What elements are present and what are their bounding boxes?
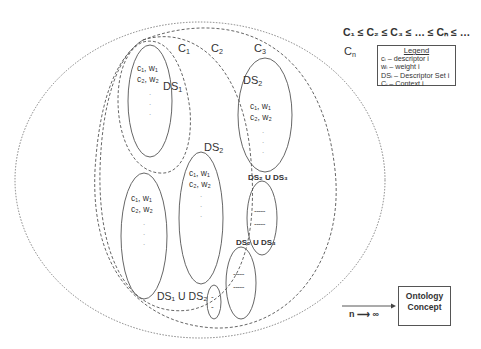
ontology-concept-box: Ontology Concept xyxy=(398,286,451,326)
ontology-line-2: Concept xyxy=(399,302,450,313)
ds1-label: DS1 xyxy=(163,81,182,94)
context-c2-boundary xyxy=(100,37,253,311)
pair-row-1: c₁, w₁ xyxy=(137,63,159,74)
pair-row-1: c₁, w₁ xyxy=(250,101,272,112)
context-c2-label: C2 xyxy=(211,43,223,56)
tiny-set-dashes: -- xyxy=(211,292,214,312)
union-a-dashes: ---------- xyxy=(254,204,265,230)
ds1-pairs: c₁, w₁ c₂, w₂ xyxy=(137,63,159,85)
ds1-union-ds2-ellipsis: ··· xyxy=(139,220,149,250)
legend-box: Legend cᵢ – descriptor i wᵢ – weight i D… xyxy=(377,45,456,86)
dash-row-2: ----- xyxy=(233,280,244,293)
context-cn-label: Cn xyxy=(344,46,356,59)
pair-row-2: c₂, w₂ xyxy=(250,112,272,123)
ds2-top-ellipsis: ··· xyxy=(258,128,268,158)
union-a-label: DS₂ U DS₃ xyxy=(248,174,288,182)
context-c3-label: C3 xyxy=(254,43,266,56)
pair-row-2: c₂, w₂ xyxy=(137,74,159,85)
descriptor-set-tiny xyxy=(207,285,221,319)
pair-row-2: c₂, w₂ xyxy=(131,204,153,215)
dash-row-1: ----- xyxy=(254,204,265,217)
limit-arrow-head xyxy=(391,304,396,309)
ds1-union-ds2-pairs: c₁, w₁ c₂, w₂ xyxy=(131,193,153,215)
union-b-dashes: ---------- xyxy=(233,267,244,293)
pair-row-1: c₁, w₁ xyxy=(131,193,153,204)
legend-item-context: Cᵢ – Context i xyxy=(381,80,452,88)
dash-row-2: ----- xyxy=(254,217,265,230)
pair-row-1: c₁, w₁ xyxy=(189,168,211,179)
ds2-mid-label: DS2 xyxy=(204,142,223,155)
ds2-mid-pairs: c₁, w₁ c₂, w₂ xyxy=(189,168,211,190)
ds1-ellipsis: ··· xyxy=(145,90,155,120)
context-c1-label: C1 xyxy=(178,43,190,56)
union-b-label: DS₂ U DS₃ xyxy=(236,239,276,247)
pair-row-2: c₂, w₂ xyxy=(189,179,211,190)
ds2-mid-ellipsis: ··· xyxy=(196,192,206,222)
ds2-top-label: DS2 xyxy=(243,75,262,88)
limit-label: n ⟶ ∞ xyxy=(349,309,379,319)
ds2-top-pairs: c₁, w₁ c₂, w₂ xyxy=(250,101,272,123)
ontology-line-1: Ontology xyxy=(399,291,450,302)
context-ordering-equation: C₁ ≤ C₂ ≤ C₃ ≤ … ≤ Cₙ ≤ … xyxy=(343,26,470,38)
dash-row-1: ----- xyxy=(233,267,244,280)
ds1-union-ds2-label: DS₁ U DS₂ xyxy=(157,291,207,302)
